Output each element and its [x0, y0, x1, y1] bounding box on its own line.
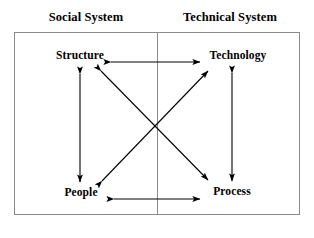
connector-arrows-group [0, 0, 314, 238]
node-technology: Technology [190, 49, 286, 61]
node-process: Process [192, 185, 272, 197]
diagram-canvas: Social System Technical System Structure… [0, 0, 314, 238]
node-structure: Structure [38, 49, 122, 61]
node-people: People [46, 186, 116, 198]
